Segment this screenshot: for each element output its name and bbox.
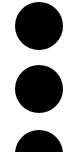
kebab-dot-icon	[15, 65, 63, 113]
kebab-dot-icon	[15, 130, 63, 152]
kebab-dot-icon	[15, 2, 63, 50]
more-options-button[interactable]: More options	[0, 0, 71, 152]
more-options-label: More options	[0, 0, 1, 1]
